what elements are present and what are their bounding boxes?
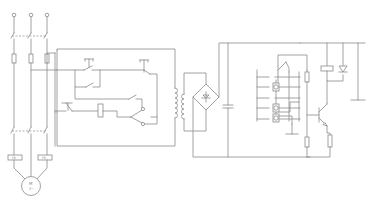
level-sensor-circuit	[257, 43, 365, 157]
svg-text:M: M	[29, 181, 33, 186]
transformer-secondary-icon	[182, 94, 185, 119]
selector-switch-icon	[131, 107, 145, 125]
circuit-diagram: FR FR M 3~	[0, 0, 372, 202]
transistor-icon	[319, 104, 327, 126]
power-circuit: FR FR M 3~	[8, 13, 52, 195]
thermal-relay-right: FR	[38, 155, 52, 160]
thermal-relay-label: FR	[12, 156, 16, 160]
resistor-r1-icon	[305, 72, 309, 82]
resistor-r2-icon	[305, 137, 309, 147]
relay-coil-icon	[321, 66, 333, 71]
start-pushbutton-icon	[140, 60, 150, 74]
main-contactor-icon	[11, 127, 47, 133]
fuses-icon	[12, 54, 49, 63]
thermal-relay-left: FR	[8, 155, 22, 160]
electrode-rack-icon	[257, 70, 300, 121]
circuit-breaker-icon	[11, 33, 47, 38]
thermal-relay-label: FR	[42, 156, 46, 160]
control-circuit	[31, 49, 175, 146]
bridge-rectifier-icon	[193, 84, 219, 110]
stop-pushbutton-icon	[57, 59, 93, 70]
terminal-l3-icon	[45, 13, 49, 17]
contactor-coil-icon	[98, 104, 103, 117]
schematic-svg: FR FR M 3~	[0, 0, 372, 202]
capacitor-icon	[223, 105, 233, 108]
diode-icon	[339, 66, 347, 72]
relay-contact-icon	[278, 55, 307, 82]
svg-text:3~: 3~	[29, 187, 34, 191]
motor-icon: M 3~	[22, 177, 41, 196]
terminal-l1-icon	[12, 13, 16, 17]
resistor-r3-icon	[328, 135, 332, 147]
transformer-primary-icon	[175, 88, 178, 118]
supply-terminals	[12, 13, 49, 17]
terminal-l2-icon	[29, 13, 33, 17]
limit-switch-icon	[55, 103, 72, 111]
transformer-rectifier	[175, 43, 365, 157]
